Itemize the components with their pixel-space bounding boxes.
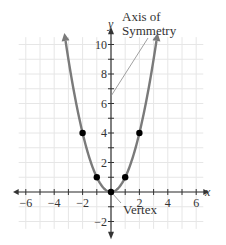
x-axis-left-arrow-icon <box>13 189 19 195</box>
y-tick-label: 8 <box>101 67 107 81</box>
data-point <box>122 174 128 180</box>
y-tick-label: 6 <box>101 97 107 111</box>
axis-of-symmetry-label-line2: Symmetry <box>122 23 177 38</box>
axis-of-symmetry-label-line1: Axis of <box>122 9 161 24</box>
y-tick-label: 4 <box>101 126 107 140</box>
y-tick-label: 2 <box>101 156 107 170</box>
data-point <box>108 189 114 195</box>
x-tick-label: −2 <box>76 196 89 210</box>
data-point <box>94 174 100 180</box>
x-tick-label: −4 <box>48 196 61 210</box>
y-tick-label: −2 <box>94 215 107 229</box>
y-axis-label: y <box>107 17 114 31</box>
data-point <box>136 130 142 136</box>
x-axis-label: x <box>204 185 211 199</box>
y-tick-label: 10 <box>95 38 107 52</box>
x-tick-label: 6 <box>193 196 199 210</box>
data-point <box>79 130 85 136</box>
vertex-leader <box>112 193 121 203</box>
x-tick-label: −6 <box>19 196 32 210</box>
axis-of-symmetry-leader <box>111 38 148 96</box>
x-tick-label: 4 <box>165 196 171 210</box>
y-axis-down-arrow-icon <box>108 232 114 239</box>
vertex-label: Vertex <box>123 202 157 217</box>
parabola-chart: −6−4−2246−2246810 x y Axis of Symmetry V… <box>0 0 226 245</box>
